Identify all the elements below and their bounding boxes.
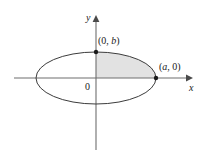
label-y-axis: y: [86, 13, 90, 23]
label-x-axis: x: [189, 83, 193, 93]
y-axis-arrowhead: [93, 15, 100, 22]
x-axis-arrowhead: [186, 74, 193, 81]
label-origin: 0: [85, 82, 90, 92]
label-point-0-b: (0, b): [98, 36, 120, 46]
point-vertex-top: [94, 50, 98, 54]
point-vertex-right: [154, 76, 158, 80]
ellipse-diagram: [0, 0, 206, 153]
label-point-a-0: (a, 0): [159, 62, 181, 72]
